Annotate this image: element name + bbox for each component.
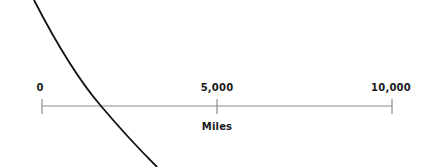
scale-label-10000: 10,000 xyxy=(371,82,411,93)
boundary-curve xyxy=(34,0,157,167)
map-scale-figure: 0 5,000 10,000 Miles xyxy=(0,0,438,167)
scale-label-5000: 5,000 xyxy=(201,82,234,93)
scale-label-0: 0 xyxy=(36,82,43,93)
scale-unit-label: Miles xyxy=(202,121,233,132)
